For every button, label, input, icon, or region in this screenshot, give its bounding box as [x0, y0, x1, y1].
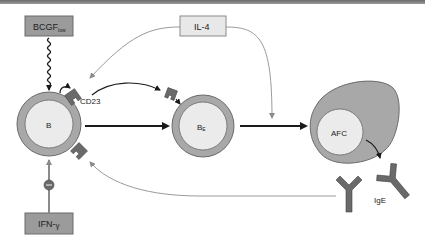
ifn-gamma-label: IFN-γ — [38, 219, 60, 230]
cd23-label: CD23 — [80, 97, 101, 106]
bcgf-low-box: BCGFlow — [25, 16, 73, 36]
ifn-gamma-box: IFN-γ — [25, 213, 73, 234]
bcgf-wavy-arrow — [48, 38, 51, 90]
afc-cell: AFC — [310, 81, 399, 163]
cd23-to-be-arrow — [92, 83, 160, 95]
il4-to-afc-arrow — [226, 27, 272, 118]
il4-to-cd23-arrow — [90, 27, 180, 78]
ige-antibody-icon — [336, 176, 362, 212]
be-cell: BE — [172, 95, 234, 157]
inhibition-minus-icon — [44, 180, 54, 190]
be-receptor-icon — [165, 88, 178, 101]
il4-label: IL-4 — [194, 22, 210, 32]
ige-feedback-arrow — [90, 162, 336, 196]
il4-box: IL-4 — [180, 16, 226, 36]
b-cell-label: B — [46, 121, 51, 130]
ige-label: IgE — [374, 196, 386, 205]
afc-label: AFC — [331, 129, 347, 138]
b-cell-recycle-arrow — [60, 87, 70, 93]
be-receptor-arrow — [176, 99, 180, 104]
diagram-canvas: BCGFlow IL-4 B CD23 BE — [0, 0, 425, 245]
